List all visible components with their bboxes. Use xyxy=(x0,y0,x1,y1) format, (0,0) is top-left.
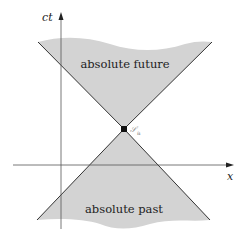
absolute-future-label: absolute future xyxy=(80,57,169,71)
event-point xyxy=(121,126,127,132)
absolute-past-label: absolute past xyxy=(85,202,163,216)
light-cone-diagram: ct x absolute future absolute past 𝒮 a xyxy=(0,0,247,241)
x-axis-arrow-icon xyxy=(226,163,234,168)
x-axis-label: x xyxy=(227,170,234,183)
absolute-future-region xyxy=(38,38,212,129)
ct-axis-arrow-icon xyxy=(59,12,64,20)
event-subscript: a xyxy=(137,129,141,136)
ct-axis-label: ct xyxy=(42,11,53,24)
